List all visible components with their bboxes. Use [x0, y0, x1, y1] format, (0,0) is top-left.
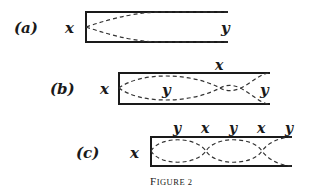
panel-b-top-label-x: x	[214, 57, 224, 73]
panel-a-tube	[86, 12, 228, 42]
panel-a: (a) x y	[14, 12, 231, 42]
panel-b: (b) x x y y	[50, 57, 270, 104]
standing-wave-figure: (a) x y (b) x x y y (c) x y x y x y FIGU…	[0, 0, 313, 193]
panel-c-node-label-x: x	[129, 144, 140, 162]
panel-c-top-label-4: x	[256, 120, 266, 136]
figure-caption: FIGURE 2	[150, 175, 192, 187]
panel-c-label: (c)	[76, 144, 99, 162]
panel-b-inner-label-y-1: y	[161, 81, 172, 99]
panel-b-wave-lower	[119, 85, 270, 104]
panel-b-node-label-x: x	[99, 80, 110, 98]
panel-c-top-label-2: x	[200, 120, 210, 136]
panel-a-label: (a)	[14, 19, 38, 37]
panel-a-wave-upper	[86, 12, 228, 27]
panel-b-inner-label-y-2: y	[259, 81, 270, 99]
panel-c-top-label-1: y	[172, 120, 182, 136]
panel-a-node-label-x: x	[64, 19, 75, 37]
figure-caption-text: IGURE 2	[157, 177, 193, 187]
panel-a-wave-lower	[86, 27, 228, 42]
panel-c-wave-b	[151, 140, 292, 166]
panel-c-top-label-5: y	[284, 120, 294, 136]
panel-b-label: (b)	[50, 80, 75, 98]
panel-c-top-label-3: y	[228, 120, 238, 136]
panel-b-wave-upper	[119, 73, 270, 91]
panel-c: (c) x y x y x y	[76, 120, 294, 166]
panel-a-antinode-label-y: y	[220, 19, 231, 37]
panel-b-tube	[119, 73, 270, 104]
